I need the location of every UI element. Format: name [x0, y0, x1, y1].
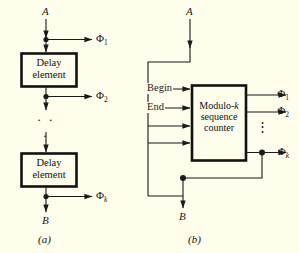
delay-element-line1-2: Delay — [22, 157, 77, 169]
counter-line1-italic: k — [234, 100, 238, 111]
delay-element-text-1: Delay element — [22, 57, 77, 81]
label-phi1-panel-a: Φ1 — [96, 33, 108, 47]
label-phik-panel-b: Φk — [278, 146, 289, 160]
figure-container: A Delay element Delay element · · · Φ1 Φ… — [0, 0, 299, 253]
counter-line1-text: Modulo- — [199, 100, 234, 111]
counter-line3: counter — [192, 122, 246, 133]
caption-panel-b: (b) — [188, 233, 201, 245]
label-output-b-panel-b: B — [179, 211, 186, 222]
delay-element-line2-1: element — [22, 69, 77, 81]
vertical-ellipsis-panel-a: · · · — [33, 112, 59, 144]
label-phik-panel-a: Φk — [96, 190, 107, 204]
phi-subscript-2b: 2 — [285, 110, 289, 119]
output-ellipsis-panel-b: ⋮ — [255, 122, 269, 131]
phi-symbol-1a: Φ — [96, 32, 104, 44]
label-output-b-panel-a: B — [42, 215, 49, 226]
label-input-a-panel-a: A — [42, 6, 49, 17]
phi-subscript-1a: 1 — [104, 38, 108, 47]
label-phi2-panel-a: Φ2 — [96, 90, 108, 104]
phi-symbol-ka: Φ — [96, 189, 104, 201]
label-phi1-panel-b: Φ1 — [277, 88, 289, 102]
label-phi2-panel-b: Φ2 — [277, 105, 289, 119]
delay-element-line1-1: Delay — [22, 57, 77, 69]
delay-element-text-2: Delay element — [22, 157, 77, 181]
feedback-bus-left — [148, 47, 190, 196]
phi-subscript-1b: 1 — [285, 93, 289, 102]
phi-symbol-2b: Φ — [277, 104, 285, 116]
phi-subscript-ka: k — [104, 195, 107, 204]
label-control-begin: Begin — [146, 83, 173, 94]
modulo-k-counter-text: Modulo-k sequence counter — [192, 100, 246, 134]
phi-subscript-2a: 2 — [104, 95, 108, 104]
label-control-end: End — [146, 102, 165, 113]
phi-subscript-kb: k — [286, 151, 289, 160]
phi-symbol-kb: Φ — [278, 145, 286, 157]
counter-line2: sequence — [192, 111, 246, 122]
phi-symbol-1b: Φ — [277, 87, 285, 99]
delay-element-line2-2: element — [22, 169, 77, 181]
label-input-a-panel-b: A — [186, 6, 193, 17]
caption-panel-a: (a) — [38, 233, 51, 245]
phi-symbol-2a: Φ — [96, 89, 104, 101]
counter-line1: Modulo-k — [192, 100, 246, 111]
